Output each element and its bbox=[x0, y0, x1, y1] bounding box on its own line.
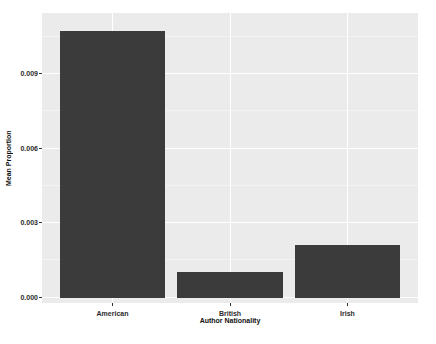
y-tick-label: 0.006 bbox=[0, 144, 38, 153]
y-tick-mark bbox=[39, 222, 42, 223]
bar-irish bbox=[295, 245, 401, 298]
y-tick-label: 0.000 bbox=[0, 293, 38, 302]
bar-american bbox=[60, 31, 166, 298]
x-axis-title: Author Nationality bbox=[42, 317, 418, 325]
x-tick-mark bbox=[347, 303, 348, 306]
y-tick-label: 0.003 bbox=[0, 218, 38, 227]
y-axis-title: Mean Proportion bbox=[2, 13, 14, 303]
y-tick-mark bbox=[39, 297, 42, 298]
x-tick-mark bbox=[112, 303, 113, 306]
x-tick-mark bbox=[230, 303, 231, 306]
y-tick-label: 0.009 bbox=[0, 69, 38, 78]
v-gridline-major bbox=[230, 13, 231, 303]
plot-panel bbox=[42, 13, 418, 303]
bar-chart-figure: Mean Proportion 0.0000.0030.0060.009 Ame… bbox=[0, 0, 436, 344]
y-tick-mark bbox=[39, 148, 42, 149]
bar-british bbox=[177, 272, 283, 298]
y-tick-mark bbox=[39, 73, 42, 74]
